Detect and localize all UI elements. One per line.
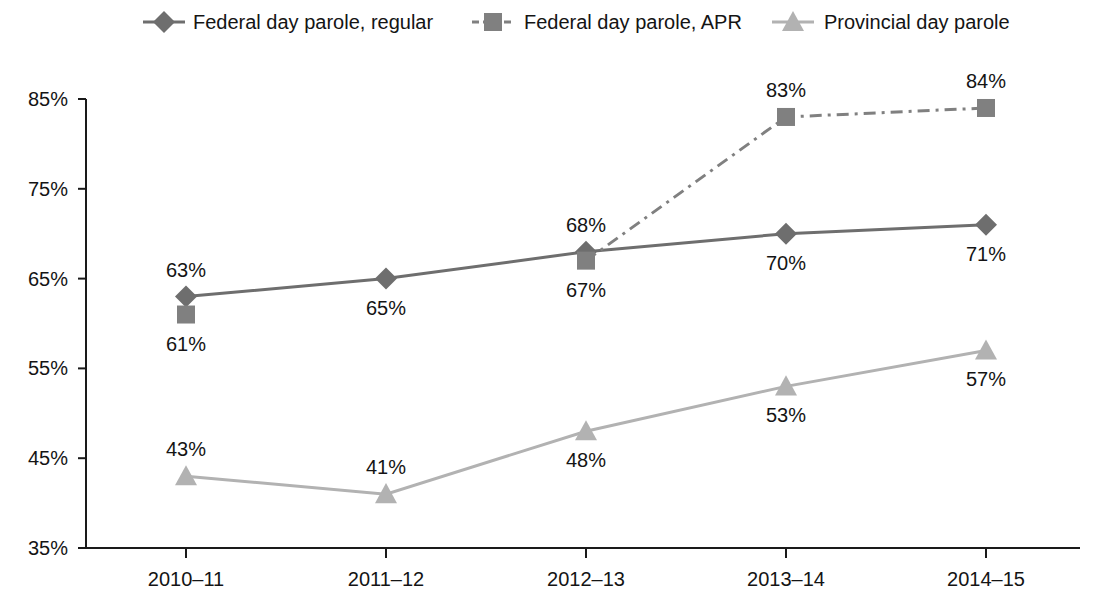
legend-marker-square <box>484 13 502 31</box>
x-axis-tick-label: 2011–12 <box>348 568 424 590</box>
legend-label: Federal day parole, regular <box>193 11 433 33</box>
y-axis-ticks: 35%45%55%65%75%85% <box>28 88 86 559</box>
data-point-marker <box>175 286 197 308</box>
data-point-label: 41% <box>366 456 406 478</box>
y-axis-tick-label: 85% <box>28 88 68 110</box>
legend-item-1[interactable]: Federal day parole, regular <box>143 11 433 33</box>
data-point-marker <box>975 339 997 359</box>
data-point-label: 83% <box>766 79 806 101</box>
legend-item-3[interactable]: Provincial day parole <box>772 11 1010 33</box>
legend-item-2[interactable]: Federal day parole, APR <box>472 11 742 33</box>
data-point-marker <box>977 99 995 117</box>
data-point-label: 65% <box>366 297 406 319</box>
data-point-label: 48% <box>566 449 606 471</box>
chart-canvas: Federal day parole, regularFederal day p… <box>0 0 1104 615</box>
x-axis-ticks: 2010–112011–122012–132013–142014–15 <box>148 548 1025 590</box>
chart-series-layer <box>175 99 997 503</box>
data-point-label: 70% <box>766 252 806 274</box>
data-point-label: 61% <box>166 333 206 355</box>
data-point-label: 67% <box>566 279 606 301</box>
data-point-label: 84% <box>966 70 1006 92</box>
chart-data-labels: 63%65%68%70%71%61%67%83%84%43%41%48%53%5… <box>166 70 1006 478</box>
legend-marker-diamond <box>153 11 175 33</box>
data-point-marker <box>175 465 197 485</box>
y-axis-tick-label: 35% <box>28 537 68 559</box>
data-point-marker <box>775 223 797 245</box>
chart-legend: Federal day parole, regularFederal day p… <box>143 11 1010 33</box>
data-point-label: 53% <box>766 404 806 426</box>
data-point-marker <box>375 268 397 290</box>
series-3 <box>175 339 997 503</box>
y-axis-tick-label: 55% <box>28 357 68 379</box>
data-point-label: 71% <box>966 243 1006 265</box>
x-axis-tick-label: 2012–13 <box>547 568 625 590</box>
data-point-marker <box>777 108 795 126</box>
data-point-marker <box>177 306 195 324</box>
x-axis-tick-label: 2010–11 <box>148 568 224 590</box>
data-point-label: 68% <box>566 214 606 236</box>
y-axis-tick-label: 45% <box>28 447 68 469</box>
data-point-label: 63% <box>166 259 206 281</box>
x-axis-tick-label: 2014–15 <box>947 568 1025 590</box>
legend-label: Federal day parole, APR <box>524 11 742 33</box>
data-point-marker <box>577 252 595 270</box>
y-axis-tick-label: 65% <box>28 268 68 290</box>
data-point-marker <box>975 214 997 236</box>
data-point-label: 43% <box>166 438 206 460</box>
line-chart-figure: Federal day parole, regularFederal day p… <box>0 0 1104 615</box>
legend-label: Provincial day parole <box>824 11 1010 33</box>
y-axis-tick-label: 75% <box>28 178 68 200</box>
data-point-label: 57% <box>966 368 1006 390</box>
x-axis-tick-label: 2013–14 <box>747 568 825 590</box>
